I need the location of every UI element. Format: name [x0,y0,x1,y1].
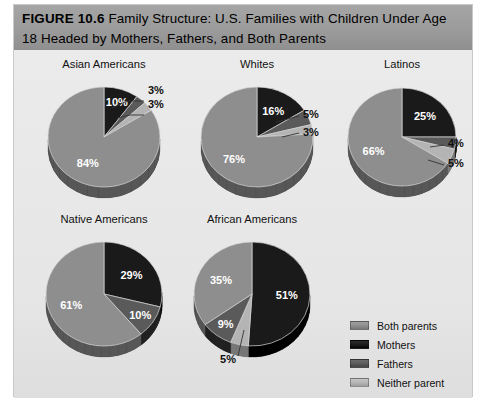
figure-title-line2: 18 Headed by Mothers, Fathers, and Both … [22,31,326,46]
pie-slice-side [388,184,396,196]
legend-label: Neither parent [377,377,444,389]
slice-value-label: 5% [303,108,319,120]
chart-legend: Both parentsMothersFathersNeither parent [350,316,470,392]
slice-value-label: 10% [129,309,151,321]
slice-value-label: 4% [448,137,464,149]
pie-slice-side [246,186,256,198]
figure-body: Asian Americans10%3%3%84%Whites16%5%3%76… [14,50,472,398]
slice-value-label: 3% [148,84,164,96]
pie-chart-title: Whites [175,58,339,70]
legend-swatch-icon [350,340,369,349]
slice-value-label: 61% [60,299,82,311]
figure-header-line2: 18 Headed by Mothers, Fathers, and Both … [22,29,464,49]
slice-value-label: 16% [262,105,284,117]
pie-chart-title: African Americans [166,213,338,225]
pie-slice-side [405,185,414,197]
pie-slice-side [396,186,405,197]
slice-value-label: 51% [276,289,298,301]
slice-value-label: 25% [414,110,436,122]
pie-chart-title: Asian Americans [22,58,186,70]
pie-chart-title: Native Americans [22,213,186,225]
legend-label: Mothers [377,339,415,351]
pie-slice-side [93,345,101,357]
slice-value-label: 84% [77,157,99,169]
legend-item: Fathers [350,354,470,373]
legend-item: Mothers [350,335,470,354]
slice-value-label: 5% [220,353,236,365]
pie-slice-side [110,344,118,356]
pie-chart-title: Latinos [324,58,480,70]
legend-swatch-icon [350,359,369,368]
pie-graphic: 51%5%9%35% [166,230,338,380]
legend-swatch-icon [350,378,369,387]
pie-slice-side [248,346,255,357]
slice-value-label: 3% [303,126,319,138]
figure-header: FIGURE 10.6 Family Structure: U.S. Famil… [14,5,472,50]
pie-graphic: 25%4%5%66% [324,75,480,225]
slice-value-label: 76% [223,153,245,165]
figure-number: FIGURE 10.6 [22,11,105,26]
pie-graphic: 29%10%61% [22,230,186,380]
slice-value-label: 3% [148,98,164,110]
pie-graphic: 10%3%3%84% [22,75,186,225]
pie-slice-side [101,346,110,357]
legend-label: Fathers [377,358,413,370]
pie-graphic: 16%5%3%76% [175,75,339,225]
legend-item: Neither parent [350,373,470,392]
slice-value-label: 5% [448,157,464,169]
legend-swatch-icon [350,321,369,330]
pie-slice-side [99,187,110,198]
slice-value-label: 29% [120,269,142,281]
slice-value-label: 66% [363,145,385,157]
slice-value-label: 9% [218,318,234,330]
legend-label: Both parents [377,320,437,332]
figure-panel: FIGURE 10.6 Family Structure: U.S. Famil… [13,4,473,397]
slice-value-label: 35% [210,274,232,286]
pie-slice-side [256,345,263,357]
pie-slice-side [256,186,266,198]
legend-item: Both parents [350,316,470,335]
figure-title-line1: Family Structure: U.S. Families with Chi… [108,11,446,26]
pie-slice-side [263,344,270,357]
figure-header-line1: FIGURE 10.6 Family Structure: U.S. Famil… [22,9,464,29]
